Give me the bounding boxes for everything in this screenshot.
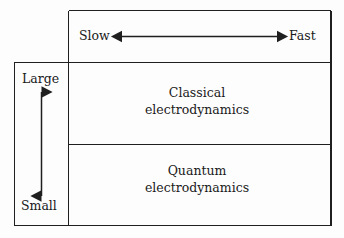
quantum-caption-line-2: electrodynamics bbox=[112, 180, 282, 197]
classical-cell-caption: Classical electrodynamics bbox=[112, 85, 282, 118]
size-axis-low-label: Small bbox=[21, 198, 57, 215]
classical-caption-line-2: electrodynamics bbox=[112, 102, 282, 119]
quantum-cell-caption: Quantum electrodynamics bbox=[112, 163, 282, 196]
size-axis-high-label: Large bbox=[22, 71, 59, 88]
speed-axis-high-label: Fast bbox=[289, 28, 316, 45]
speed-axis-low-label: Slow bbox=[79, 28, 110, 45]
regime-diagram: Slow Fast Large Small Classical electrod… bbox=[0, 0, 344, 238]
classical-caption-line-1: Classical bbox=[112, 85, 282, 102]
quantum-caption-line-1: Quantum bbox=[112, 163, 282, 180]
